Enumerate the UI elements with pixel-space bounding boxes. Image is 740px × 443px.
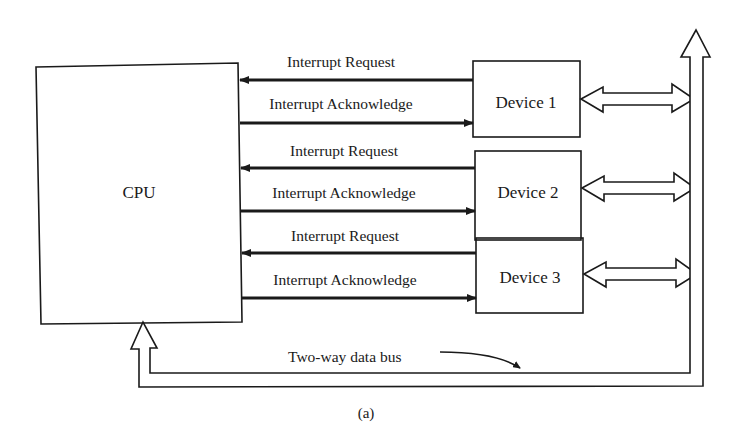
device-3-label: Device 3 (500, 268, 561, 287)
device-2-signals: Interrupt Request Interrupt Acknowledge (241, 142, 475, 211)
cpu-label: CPU (122, 183, 155, 202)
device-2-ack-label: Interrupt Acknowledge (272, 184, 415, 201)
bus-label-group: Two-way data bus (288, 348, 520, 368)
bus-label: Two-way data bus (288, 348, 401, 365)
figure-caption: (a) (358, 405, 375, 422)
cpu-block: CPU (36, 63, 242, 324)
device-3-signals: Interrupt Request Interrupt Acknowledge (242, 227, 476, 298)
device-2-bus-connector (582, 173, 695, 201)
device-1-bus-connector (581, 84, 694, 112)
device-1-ack-label: Interrupt Acknowledge (269, 95, 412, 112)
interrupt-diagram: CPU Device 1 Device 2 Device 3 Interrupt… (0, 0, 740, 443)
device-3-block: Device 3 (476, 238, 583, 313)
device-2-label: Device 2 (498, 183, 559, 202)
device-2-request-label: Interrupt Request (290, 142, 399, 159)
device-1-request-label: Interrupt Request (287, 53, 396, 70)
device-3-ack-label: Interrupt Acknowledge (273, 271, 416, 288)
device-1-signals: Interrupt Request Interrupt Acknowledge (240, 53, 473, 123)
device-2-block: Device 2 (475, 151, 581, 240)
bus-pointer-arrow (440, 352, 520, 368)
device-3-request-label: Interrupt Request (291, 227, 400, 244)
device-3-bus-connector (584, 259, 697, 287)
device-1-label: Device 1 (496, 93, 557, 112)
device-1-block: Device 1 (473, 61, 580, 137)
data-bus (131, 30, 710, 387)
